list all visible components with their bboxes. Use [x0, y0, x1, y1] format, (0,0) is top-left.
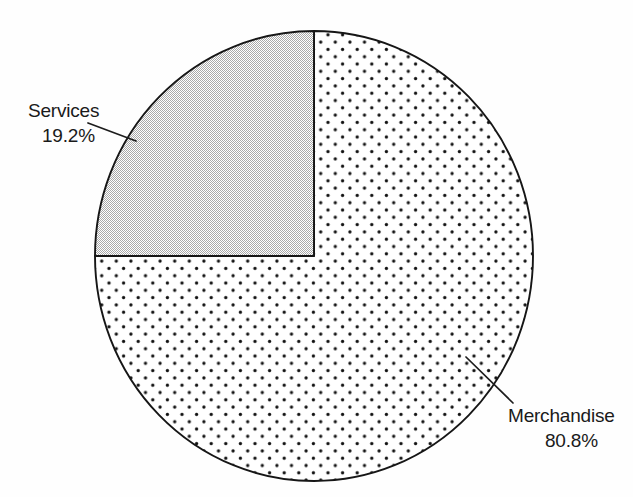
pie-slice-services-fill: [95, 31, 314, 256]
label-merchandise-percent: 80.8%: [545, 430, 598, 451]
label-services-percent: 19.2%: [42, 125, 95, 146]
pie-chart-figure: Services 19.2% Merchandise 80.8%: [0, 0, 633, 497]
pie-slice-services[interactable]: [95, 31, 314, 256]
pie-chart-svg: Services 19.2% Merchandise 80.8%: [0, 0, 633, 497]
label-merchandise-name: Merchandise: [508, 405, 615, 426]
label-services-name: Services: [28, 100, 99, 121]
leader-line-services: [88, 123, 136, 141]
label-merchandise: Merchandise 80.8%: [508, 405, 615, 451]
